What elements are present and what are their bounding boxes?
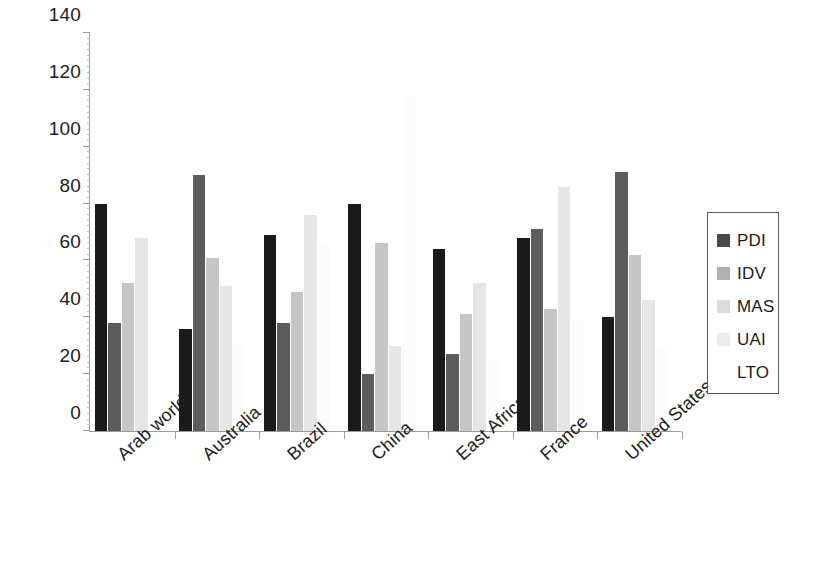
bar	[531, 229, 544, 431]
y-axis-minor-tick	[87, 186, 90, 187]
bar	[375, 243, 388, 431]
chart-legend: PDIIDVMASUAILTO	[707, 212, 779, 394]
bar-group	[433, 33, 501, 431]
y-axis-minor-tick	[87, 83, 90, 84]
y-axis-minor-tick	[87, 214, 90, 215]
bar	[389, 346, 402, 431]
y-axis-minor-tick	[87, 248, 90, 249]
y-axis-minor-tick	[87, 220, 90, 221]
y-axis-minor-tick	[87, 129, 90, 130]
bar-group	[95, 33, 163, 431]
y-axis-minor-tick	[87, 117, 90, 118]
y-axis-tick-mark	[83, 430, 90, 431]
bar-chart: 020406080100120140 Arab worldAustraliaBr…	[0, 0, 818, 573]
y-axis-minor-tick	[87, 294, 90, 295]
bar	[629, 255, 642, 431]
y-axis-minor-tick	[87, 157, 90, 158]
bar	[193, 175, 206, 431]
y-axis-minor-tick	[87, 305, 90, 306]
y-axis-minor-tick	[87, 208, 90, 209]
x-axis-tick-mark	[682, 431, 683, 439]
y-axis-minor-tick	[87, 168, 90, 169]
x-axis-tick-mark	[513, 431, 514, 439]
bar	[433, 249, 446, 431]
y-axis-minor-tick	[87, 254, 90, 255]
x-axis-tick-mark	[175, 431, 176, 439]
legend-item-mas[interactable]: MAS	[717, 290, 778, 323]
y-axis-minor-tick	[87, 277, 90, 278]
y-axis-minor-tick	[87, 49, 90, 50]
y-axis-minor-tick	[87, 123, 90, 124]
y-axis-minor-tick	[87, 282, 90, 283]
legend-label: UAI	[737, 331, 766, 348]
y-axis-minor-tick	[87, 95, 90, 96]
y-axis-minor-tick	[87, 55, 90, 56]
y-axis-tick-mark	[83, 203, 90, 204]
bar	[108, 323, 121, 431]
y-axis-minor-tick	[87, 231, 90, 232]
y-axis-minor-tick	[87, 66, 90, 67]
y-axis-minor-tick	[87, 271, 90, 272]
bar	[277, 323, 290, 431]
bar	[220, 286, 233, 431]
bar	[95, 204, 108, 431]
y-axis-minor-tick	[87, 100, 90, 101]
y-axis-tick-mark	[83, 146, 90, 147]
y-axis-minor-tick	[87, 43, 90, 44]
y-axis-minor-tick	[87, 140, 90, 141]
bar	[135, 238, 148, 431]
y-axis-tick-label: 60	[59, 232, 81, 251]
y-axis-minor-tick	[87, 367, 90, 368]
bar-group	[517, 33, 585, 431]
y-axis-minor-tick	[87, 174, 90, 175]
y-axis-minor-tick	[87, 356, 90, 357]
y-axis-minor-tick	[87, 78, 90, 79]
bar-group	[264, 33, 332, 431]
bar	[304, 215, 317, 431]
legend-label: PDI	[737, 232, 766, 249]
bar-group	[602, 33, 670, 431]
legend-label: MAS	[737, 298, 774, 315]
legend-item-idv[interactable]: IDV	[717, 257, 778, 290]
bar	[544, 309, 557, 431]
y-axis-tick-mark	[83, 373, 90, 374]
legend-swatch-icon	[717, 234, 730, 247]
y-axis-tick-label: 140	[49, 5, 81, 24]
y-axis-minor-tick	[87, 38, 90, 39]
y-axis-minor-tick	[87, 151, 90, 152]
y-axis-tick-mark	[83, 259, 90, 260]
bar	[362, 374, 375, 431]
bar	[206, 258, 219, 431]
bar	[602, 317, 615, 431]
bar	[291, 292, 304, 431]
legend-swatch-icon	[717, 366, 730, 379]
y-axis-minor-tick	[87, 413, 90, 414]
y-axis-minor-tick	[87, 237, 90, 238]
y-axis-minor-tick	[87, 402, 90, 403]
bar-group	[179, 33, 247, 431]
legend-item-pdi[interactable]: PDI	[717, 224, 778, 257]
legend-item-lto[interactable]: LTO	[717, 356, 778, 389]
y-axis-minor-tick	[87, 390, 90, 391]
y-axis-tick-mark	[83, 89, 90, 90]
bar	[318, 246, 331, 431]
y-axis-tick-mark	[83, 32, 90, 33]
bar	[348, 204, 361, 431]
legend-swatch-icon	[717, 300, 730, 313]
bar	[122, 283, 135, 431]
legend-item-uai[interactable]: UAI	[717, 323, 778, 356]
legend-label: LTO	[737, 364, 769, 381]
y-axis-minor-tick	[87, 72, 90, 73]
y-axis-minor-tick	[87, 362, 90, 363]
bar	[615, 172, 628, 431]
y-axis-minor-tick	[87, 180, 90, 181]
y-axis-minor-tick	[87, 242, 90, 243]
y-axis-tick-label: 120	[49, 61, 81, 80]
x-axis-tick-mark	[428, 431, 429, 439]
y-axis-minor-tick	[87, 265, 90, 266]
y-axis-tick-label: 20	[59, 346, 81, 365]
y-axis-minor-tick	[87, 328, 90, 329]
y-axis-minor-tick	[87, 288, 90, 289]
y-axis-minor-tick	[87, 299, 90, 300]
x-axis-tick-mark	[597, 431, 598, 439]
